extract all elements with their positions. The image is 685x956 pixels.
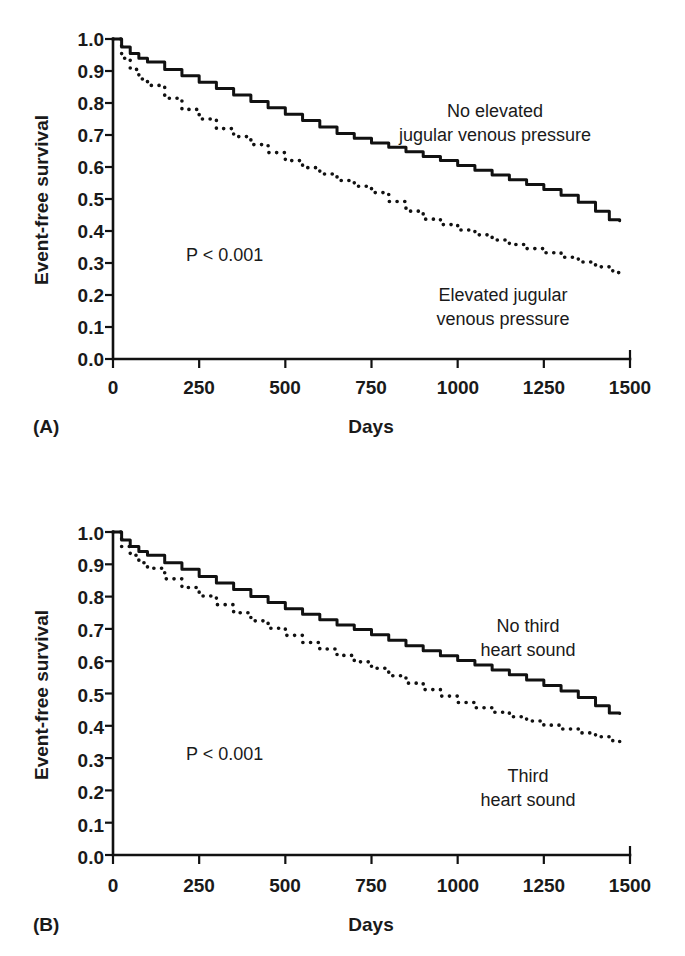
x-tick-label: 1500	[609, 875, 651, 896]
x-tick-label: 0	[108, 377, 119, 398]
panel-b-x-tick-labels: 0 250 500 750 1000 1250 1500	[108, 875, 651, 896]
panel-a: Event-free survival 1.0 0.9 0.8 0.7 0.6 …	[0, 0, 685, 470]
x-tick-label: 1250	[523, 377, 565, 398]
x-tick-label: 500	[269, 377, 301, 398]
x-tick-label: 250	[183, 377, 215, 398]
panel-a-curves	[113, 39, 620, 275]
y-tick-label: 1.0	[78, 523, 104, 544]
panel-b-y-axis-title: Event-free survival	[31, 610, 52, 780]
survival-curve-dotted	[113, 532, 620, 743]
y-tick-label: 0.7	[78, 125, 104, 146]
panel-a-annotation-lower-line1: Elevated jugular	[438, 285, 567, 305]
panel-a-annotation-upper-line2: jugular venous pressure	[398, 125, 591, 145]
x-tick-label: 750	[355, 875, 387, 896]
y-tick-label: 0.1	[78, 317, 105, 338]
panel-a-pvalue: P < 0.001	[186, 245, 263, 265]
panel-b-annotation-lower-line1: Third	[507, 766, 548, 786]
y-tick-label: 0.3	[78, 750, 104, 771]
x-tick-label: 750	[355, 377, 387, 398]
y-tick-label: 0.6	[78, 157, 104, 178]
x-tick-label: 1500	[609, 377, 651, 398]
panel-a-x-tick-labels: 0 250 500 750 1000 1250 1500	[108, 377, 651, 398]
panel-b-annotation-upper-line2: heart sound	[480, 640, 575, 660]
panel-b-x-axis-title: Days	[348, 914, 393, 935]
figure-kaplan-meier-survival: Event-free survival 1.0 0.9 0.8 0.7 0.6 …	[0, 0, 685, 956]
panel-b-annotation-upper-line1: No third	[496, 616, 559, 636]
panel-a-chart: Event-free survival 1.0 0.9 0.8 0.7 0.6 …	[0, 0, 685, 470]
x-tick-label: 1000	[437, 377, 479, 398]
panel-b-chart: Event-free survival 1.0 0.9 0.8 0.7 0.6 …	[0, 470, 685, 956]
y-tick-label: 0.1	[78, 815, 105, 836]
panel-a-annotation-upper-line1: No elevated	[447, 101, 543, 121]
panel-b-y-tick-labels: 1.0 0.9 0.8 0.7 0.6 0.5 0.4 0.3 0.2 0.1 …	[78, 523, 105, 868]
panel-b-curves	[113, 532, 620, 743]
panel-b-pvalue: P < 0.001	[186, 744, 263, 764]
y-tick-label: 0.5	[78, 189, 105, 210]
x-tick-label: 1250	[523, 875, 565, 896]
y-tick-label: 0.7	[78, 620, 104, 641]
y-tick-label: 0.3	[78, 253, 104, 274]
panel-a-y-axis-title: Event-free survival	[31, 115, 52, 285]
panel-b-annotation-lower-line2: heart sound	[480, 790, 575, 810]
x-tick-label: 1000	[437, 875, 479, 896]
y-tick-label: 0.8	[78, 93, 104, 114]
panel-a-annotation-lower-line2: venous pressure	[436, 309, 569, 329]
y-tick-label: 0.2	[78, 285, 104, 306]
x-tick-label: 500	[269, 875, 301, 896]
panel-a-letter: (A)	[33, 416, 59, 437]
y-tick-label: 0.0	[78, 847, 104, 868]
panel-b-axes	[105, 532, 630, 864]
panel-b-letter: (B)	[33, 914, 59, 935]
x-tick-label: 250	[183, 875, 215, 896]
y-tick-label: 0.5	[78, 685, 105, 706]
panel-a-x-axis-title: Days	[348, 416, 393, 437]
y-tick-label: 0.8	[78, 587, 104, 608]
y-tick-label: 0.4	[78, 717, 105, 738]
y-tick-label: 0.9	[78, 555, 104, 576]
panel-a-y-tick-labels: 1.0 0.9 0.8 0.7 0.6 0.5 0.4 0.3 0.2 0.1 …	[78, 29, 105, 370]
y-tick-label: 0.4	[78, 221, 105, 242]
x-tick-label: 0	[108, 875, 119, 896]
y-tick-label: 0.9	[78, 61, 104, 82]
y-tick-label: 0.0	[78, 349, 104, 370]
y-tick-label: 0.6	[78, 652, 104, 673]
panel-b: Event-free survival 1.0 0.9 0.8 0.7 0.6 …	[0, 470, 685, 956]
y-tick-label: 0.2	[78, 782, 104, 803]
y-tick-label: 1.0	[78, 29, 104, 50]
